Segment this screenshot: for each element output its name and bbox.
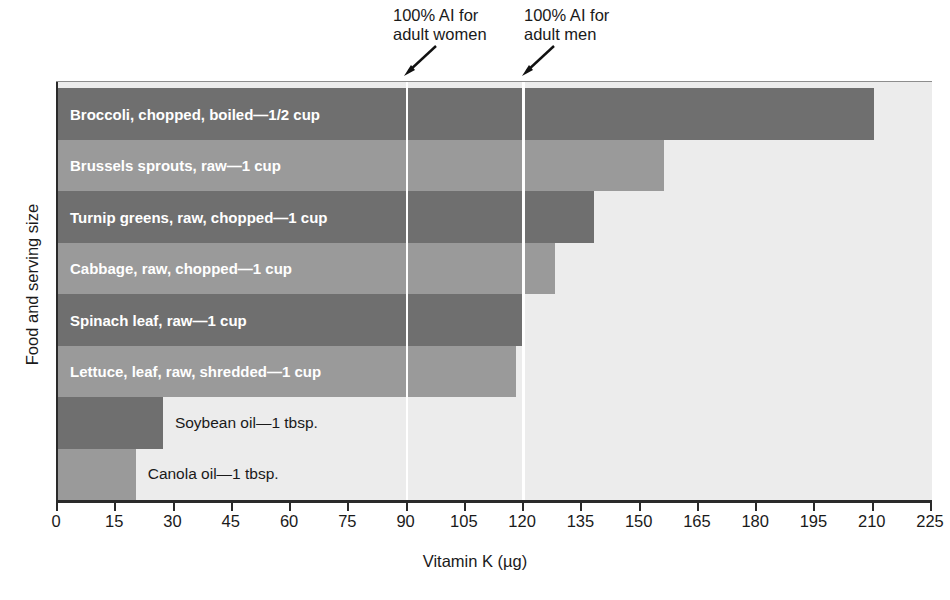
bar-row: Cabbage, raw, chopped—1 cup (58, 243, 932, 295)
x-axis-tick (56, 500, 58, 511)
x-axis-tick-label: 195 (793, 512, 833, 531)
bar-label: Soybean oil—1 tbsp. (175, 414, 318, 432)
bar-row: Broccoli, chopped, boiled—1/2 cup (58, 88, 932, 140)
reference-line-adult-men-ai (522, 82, 525, 500)
x-axis-tick-label: 105 (444, 512, 484, 531)
bar-row: Brussels sprouts, raw—1 cup (58, 140, 932, 192)
x-axis-tick (522, 500, 524, 511)
x-axis-tick-label: 30 (153, 512, 193, 531)
bar-row: Spinach leaf, raw—1 cup (58, 294, 932, 346)
x-axis-tick (697, 500, 699, 511)
reference-line-adult-women-ai (406, 82, 409, 500)
x-axis-tick-label: 60 (269, 512, 309, 531)
x-axis-tick-label: 135 (560, 512, 600, 531)
x-axis-tick-label: 165 (677, 512, 717, 531)
x-axis-line (56, 500, 932, 503)
bar (58, 397, 163, 449)
x-axis-tick (464, 500, 466, 511)
plot-area: Broccoli, chopped, boiled—1/2 cupBrussel… (56, 82, 932, 500)
x-axis-tick (872, 500, 874, 511)
bar-label: Spinach leaf, raw—1 cup (70, 311, 247, 328)
x-axis-tick (639, 500, 641, 511)
x-axis-tick (813, 500, 815, 511)
annotation-arrow-men-icon (518, 44, 558, 78)
bar-label: Cabbage, raw, chopped—1 cup (70, 260, 292, 277)
y-axis-title: Food and serving size (23, 165, 42, 405)
bar-row: Canola oil—1 tbsp. (58, 449, 932, 501)
annotation-adult-men: 100% AI for adult men (524, 6, 609, 44)
bar-row: Soybean oil—1 tbsp. (58, 397, 932, 449)
bar-row: Turnip greens, raw, chopped—1 cup (58, 191, 932, 243)
vitamin-k-bar-chart: 100% AI for adult women 100% AI for adul… (0, 0, 950, 600)
x-axis-tick (406, 500, 408, 511)
x-axis-tick (755, 500, 757, 511)
x-axis-tick-label: 15 (94, 512, 134, 531)
x-axis-tick (231, 500, 233, 511)
bar-label: Brussels sprouts, raw—1 cup (70, 157, 281, 174)
bar-label: Turnip greens, raw, chopped—1 cup (70, 208, 328, 225)
x-axis-tick-label: 0 (36, 512, 76, 531)
x-axis-tick-label: 45 (211, 512, 251, 531)
bar-label: Broccoli, chopped, boiled—1/2 cup (70, 105, 320, 122)
x-axis-tick-label: 90 (386, 512, 426, 531)
x-axis-tick (580, 500, 582, 511)
x-axis-tick (930, 500, 932, 511)
x-axis-tick-label: 210 (852, 512, 892, 531)
bar-label: Canola oil—1 tbsp. (148, 465, 279, 483)
annotation-arrow-women-icon (400, 44, 440, 78)
x-axis-title: Vitamin K (µg) (0, 552, 950, 571)
x-axis-tick (289, 500, 291, 511)
bar-label: Lettuce, leaf, raw, shredded—1 cup (70, 363, 321, 380)
bar-row: Lettuce, leaf, raw, shredded—1 cup (58, 346, 932, 398)
x-axis-tick-label: 75 (327, 512, 367, 531)
annotation-adult-women: 100% AI for adult women (393, 6, 487, 44)
x-axis-tick (173, 500, 175, 511)
x-axis-tick-label: 120 (502, 512, 542, 531)
x-axis-tick-label: 180 (735, 512, 775, 531)
x-axis-tick-label: 225 (910, 512, 950, 531)
x-axis-tick-label: 150 (619, 512, 659, 531)
x-axis-tick (114, 500, 116, 511)
x-axis-tick (347, 500, 349, 511)
bar (58, 449, 136, 501)
